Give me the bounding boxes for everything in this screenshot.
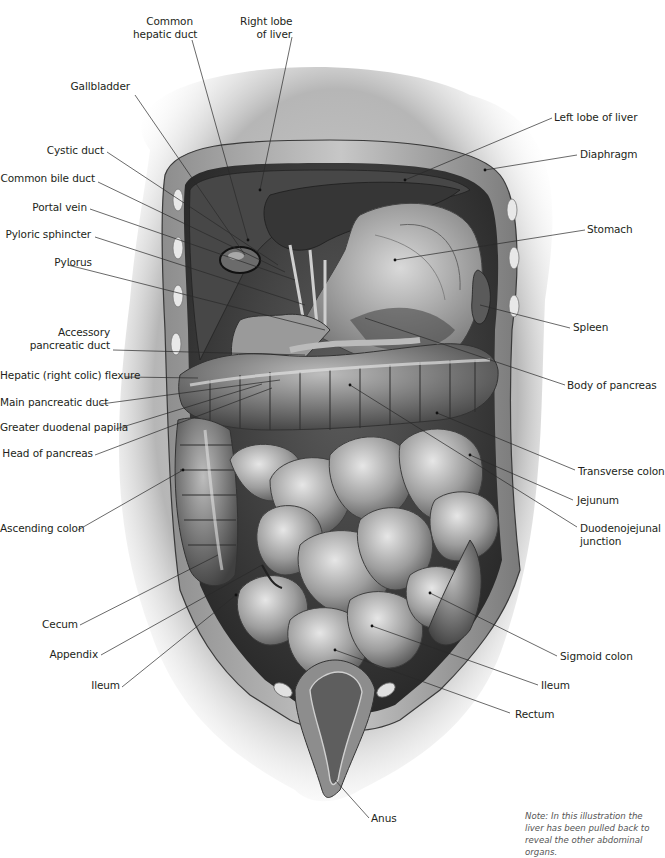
label-line: hepatic duct [133,28,193,41]
label-spleen: Spleen [573,321,608,334]
label-gallbladder: Gallbladder [40,80,130,93]
label-text: Cecum [42,618,78,630]
label-text: Ileum [91,679,120,691]
label-text: Portal vein [32,201,87,213]
label-ascending-colon: Ascending colon [0,522,76,535]
label-text: Sigmoid colon [560,650,633,662]
label-text: Transverse colon [578,465,665,477]
label-text: Rectum [515,708,554,720]
label-cecum: Cecum [0,618,78,631]
label-pyloric-sphincter: Pyloric sphincter [0,228,91,241]
label-line: of liver [240,28,292,41]
label-text: Appendix [49,648,98,660]
label-stomach: Stomach [587,223,633,236]
label-greater-duodenal-papilla: Greater duodenal papilla [0,421,114,434]
label-text: Main pancreatic duct [0,396,108,408]
label-text: Jejunum [577,494,619,506]
label-text: Body of pancreas [567,379,657,391]
label-text: Ileum [541,679,570,691]
label-cystic-duct: Cystic duct [0,144,104,157]
label-text: Anus [371,812,397,824]
label-text: Diaphragm [580,148,638,160]
label-text: Hepatic (right colic) flexure [0,369,140,381]
label-accessory-pancreatic-duct: Accessory pancreatic duct [0,326,110,352]
label-portal-vein: Portal vein [0,201,87,214]
label-line: Right lobe [240,15,292,28]
label-text: Common bile duct [0,172,95,184]
label-text: Greater duodenal papilla [0,421,128,433]
label-line: junction [580,535,661,548]
label-text: Stomach [587,223,633,235]
label-pylorus: Pylorus [0,256,92,269]
label-text: Pyloric sphincter [5,228,91,240]
label-text: Head of pancreas [2,447,93,459]
label-text: Left lobe of liver [554,111,637,123]
label-line: Duodenojejunal [580,522,661,535]
label-transverse-colon: Transverse colon [578,465,665,478]
label-duodenojejunal-junction: Duodenojejunal junction [580,522,661,548]
label-jejunum: Jejunum [577,494,619,507]
label-hepatic-flexure: Hepatic (right colic) flexure [0,369,123,382]
label-main-pancreatic-duct: Main pancreatic duct [0,396,99,409]
label-right-lobe-of-liver: Right lobe of liver [240,15,292,41]
label-appendix: Appendix [0,648,98,661]
label-sigmoid-colon: Sigmoid colon [560,650,633,663]
label-text: Ascending colon [0,522,84,534]
label-common-hepatic-duct: Common hepatic duct [133,15,193,41]
label-text: Spleen [573,321,608,333]
label-head-of-pancreas: Head of pancreas [0,447,93,460]
gallbladder [220,247,260,273]
label-line: Common [133,15,193,28]
label-left-lobe-of-liver: Left lobe of liver [554,111,637,124]
label-rectum: Rectum [515,708,554,721]
label-text: Pylorus [54,256,92,268]
label-ileum-left: Ileum [0,679,120,692]
label-body-of-pancreas: Body of pancreas [567,379,657,392]
label-text: Gallbladder [71,80,130,92]
label-anus: Anus [371,812,397,825]
label-ileum-right: Ileum [541,679,570,692]
label-text: Cystic duct [47,144,104,156]
label-line: Accessory [0,326,110,339]
illustration-note: Note: In this illustration the liver has… [525,810,660,858]
label-common-bile-duct: Common bile duct [0,172,95,185]
label-diaphragm: Diaphragm [580,148,638,161]
label-line: pancreatic duct [0,339,110,352]
